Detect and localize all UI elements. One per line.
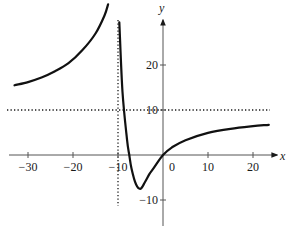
x-axis-label: x	[279, 149, 286, 163]
y-axis-label: y	[158, 1, 165, 15]
x-tick-label: −30	[19, 160, 38, 174]
asymptotes	[7, 20, 270, 206]
ticks: −30−20−1001020−101020	[19, 58, 259, 207]
x-tick-label: 10	[202, 160, 214, 174]
x-tick-label: 0	[169, 160, 175, 174]
x-tick-label: 20	[247, 160, 259, 174]
left-branch-curve	[15, 4, 109, 85]
chart: −30−20−1001020−101020 x y	[0, 0, 290, 233]
y-tick-label: 10	[146, 103, 158, 117]
x-tick-label: −20	[64, 160, 83, 174]
x-tick-label: −10	[109, 160, 128, 174]
y-tick-label: 20	[146, 58, 158, 72]
curves	[15, 4, 269, 189]
y-tick-label: −10	[139, 193, 158, 207]
